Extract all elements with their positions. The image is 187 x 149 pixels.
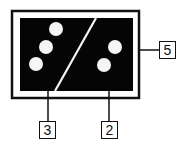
dot — [108, 40, 122, 54]
callout-label-3: 3 — [39, 121, 56, 139]
callout-text: 5 — [164, 43, 172, 57]
dot — [39, 40, 53, 54]
callout-label-5: 5 — [159, 41, 176, 59]
dot — [49, 22, 63, 36]
callout-label-2: 2 — [101, 121, 118, 139]
dot — [29, 57, 43, 71]
callout-text: 2 — [106, 123, 114, 137]
domino-diagram — [0, 0, 187, 149]
callout-text: 3 — [44, 123, 52, 137]
dot — [97, 58, 111, 72]
